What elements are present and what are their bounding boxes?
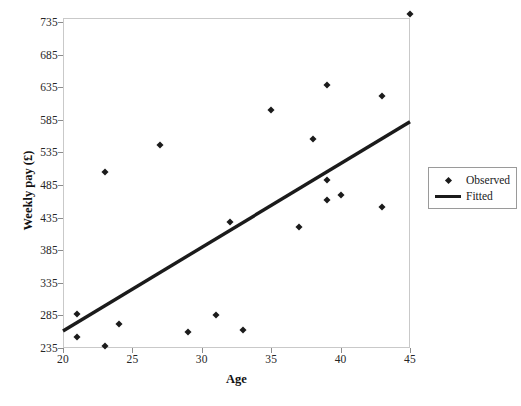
- x-tick-mark: [63, 348, 64, 353]
- x-tick-mark: [341, 348, 342, 353]
- x-tick-label: 25: [126, 353, 138, 365]
- legend-label-observed: Observed: [463, 174, 510, 186]
- chart-legend: Observed Fitted: [428, 167, 517, 209]
- legend-item-fitted: Fitted: [433, 188, 510, 204]
- legend-item-observed: Observed: [433, 172, 510, 188]
- y-axis-label: Weekly pay (£): [21, 101, 36, 281]
- x-axis-label: Age: [63, 372, 410, 387]
- x-tick-mark: [132, 348, 133, 353]
- x-tick-label: 20: [57, 353, 69, 365]
- diamond-marker-icon: [433, 178, 463, 183]
- scatter-chart-figure: 235285335385435485535585635685735 202530…: [0, 0, 521, 406]
- x-tick-mark: [202, 348, 203, 353]
- x-tick-label: 40: [335, 353, 347, 365]
- x-tick-label: 30: [196, 353, 208, 365]
- x-tick-label: 35: [265, 353, 277, 365]
- line-swatch-icon: [433, 195, 463, 198]
- x-tick-label: 45: [404, 353, 416, 365]
- x-tick-mark: [271, 348, 272, 353]
- x-tick-mark: [410, 348, 411, 353]
- legend-label-fitted: Fitted: [463, 190, 493, 202]
